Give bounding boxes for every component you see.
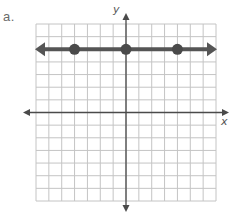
- data-series: [35, 42, 217, 56]
- y-axis-down-arrow-icon: [123, 205, 130, 212]
- y-axis-up-arrow-icon: [123, 13, 130, 20]
- data-point: [121, 44, 132, 55]
- data-point: [69, 44, 80, 55]
- axes: [23, 13, 229, 212]
- coordinate-plane: x y: [0, 0, 237, 223]
- y-axis-label: y: [112, 3, 120, 16]
- data-point: [172, 44, 183, 55]
- x-axis-label: x: [220, 115, 228, 128]
- x-axis-left-arrow-icon: [23, 109, 30, 116]
